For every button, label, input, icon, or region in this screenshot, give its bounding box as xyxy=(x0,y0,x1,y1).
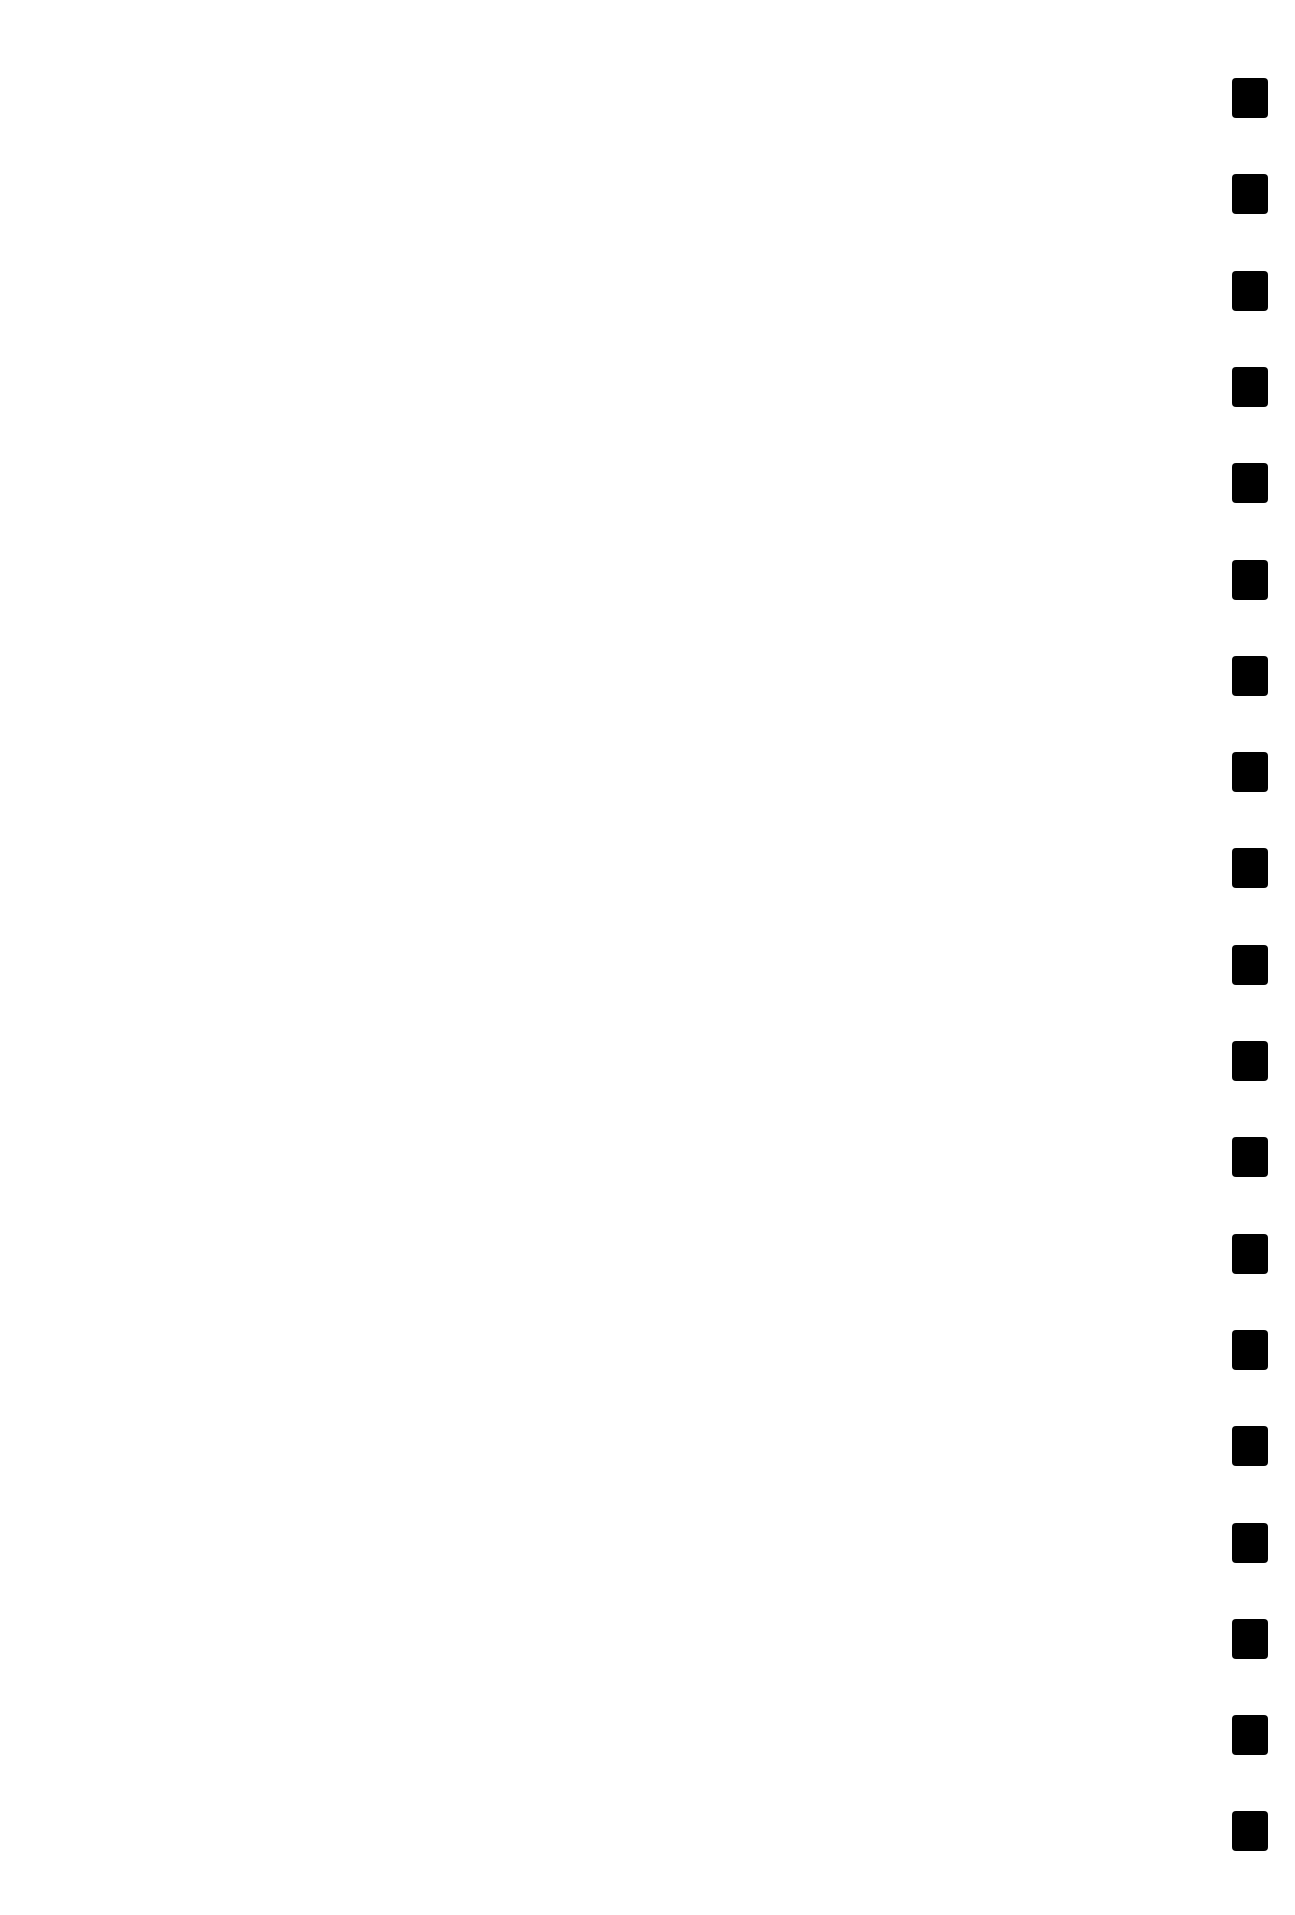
blank-document-page xyxy=(0,0,1295,1915)
binding-hole-mark xyxy=(1232,271,1268,311)
binding-hole-mark xyxy=(1232,1234,1268,1274)
binding-hole-mark xyxy=(1232,560,1268,600)
binding-hole-mark xyxy=(1232,174,1268,214)
binding-hole-mark xyxy=(1232,463,1268,503)
binding-hole-mark xyxy=(1232,656,1268,696)
binding-hole-mark xyxy=(1232,945,1268,985)
binding-hole-mark xyxy=(1232,1041,1268,1081)
binding-hole-strip xyxy=(1232,0,1272,1915)
binding-hole-mark xyxy=(1232,1426,1268,1466)
binding-hole-mark xyxy=(1232,78,1268,118)
binding-hole-mark xyxy=(1232,367,1268,407)
binding-hole-mark xyxy=(1232,1811,1268,1851)
binding-hole-mark xyxy=(1232,1715,1268,1755)
binding-hole-mark xyxy=(1232,1330,1268,1370)
binding-hole-mark xyxy=(1232,1137,1268,1177)
binding-hole-mark xyxy=(1232,752,1268,792)
binding-hole-mark xyxy=(1232,1523,1268,1563)
binding-hole-mark xyxy=(1232,1619,1268,1659)
binding-hole-mark xyxy=(1232,848,1268,888)
